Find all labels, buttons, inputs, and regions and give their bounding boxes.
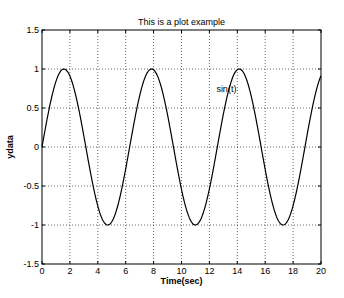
x-tick-label: 4 <box>95 266 100 276</box>
x-tick-label: 2 <box>67 266 72 276</box>
x-tick-label: 12 <box>204 266 214 276</box>
x-tick-labels: 02468101214161820 <box>39 266 326 276</box>
y-tick-label: -0.5 <box>23 181 39 191</box>
grid-lines <box>42 30 321 264</box>
series-annotation: sin(t) <box>216 84 236 94</box>
x-tick-label: 20 <box>316 266 326 276</box>
x-axis-label: Time(sec) <box>161 276 203 286</box>
figure: 02468101214161820 -1.5-1-0.500.511.5 Thi… <box>0 0 344 298</box>
y-axis-label: ydata <box>5 134 15 159</box>
x-tick-label: 8 <box>151 266 156 276</box>
x-tick-label: 0 <box>39 266 44 276</box>
chart-title: This is a plot example <box>138 17 225 27</box>
x-tick-label: 18 <box>288 266 298 276</box>
y-tick-label: 0 <box>34 142 39 152</box>
y-tick-label: -1 <box>31 220 39 230</box>
y-tick-label: -1.5 <box>23 259 39 269</box>
y-tick-label: 0.5 <box>26 103 39 113</box>
x-tick-label: 10 <box>176 266 186 276</box>
x-tick-label: 6 <box>123 266 128 276</box>
y-tick-labels: -1.5-1-0.500.511.5 <box>23 25 39 269</box>
x-tick-label: 16 <box>260 266 270 276</box>
y-tick-label: 1.5 <box>26 25 39 35</box>
y-tick-label: 1 <box>34 64 39 74</box>
x-tick-label: 14 <box>232 266 242 276</box>
